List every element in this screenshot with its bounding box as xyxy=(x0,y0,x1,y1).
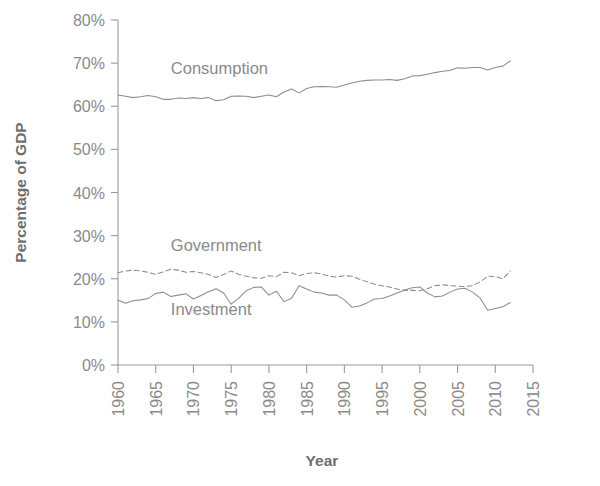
series-label-investment: Investment xyxy=(171,300,252,318)
x-tick-label: 2005 xyxy=(450,381,467,417)
x-tick-label: 1985 xyxy=(299,381,316,417)
x-tick-labels: 1960196519701975198019851990199520002005… xyxy=(110,381,542,417)
x-tick-label: 1970 xyxy=(185,381,202,417)
chart-canvas: 0%10%20%30%40%50%60%70%80% 1960196519701… xyxy=(0,0,600,486)
y-tick-label: 0% xyxy=(82,357,105,374)
x-axis-title: Year xyxy=(306,452,339,469)
x-tick-label: 1975 xyxy=(223,381,240,417)
x-tick-label: 1980 xyxy=(261,381,278,417)
data-series-group xyxy=(118,61,510,310)
x-tick-label: 2015 xyxy=(525,381,542,417)
series-label-government: Government xyxy=(171,236,262,254)
x-tick-label: 1995 xyxy=(374,381,391,417)
x-tick-label: 1990 xyxy=(336,381,353,417)
y-tick-label: 60% xyxy=(73,98,105,115)
y-tick-marks xyxy=(111,20,118,365)
y-tick-label: 10% xyxy=(73,314,105,331)
x-tick-label: 2000 xyxy=(412,381,429,417)
x-tick-marks xyxy=(118,365,533,373)
y-axis-title: Percentage of GDP xyxy=(12,122,29,262)
y-axis-group: 0%10%20%30%40%50%60%70%80% xyxy=(73,12,118,374)
series-line-government xyxy=(118,269,510,291)
y-tick-labels: 0%10%20%30%40%50%60%70%80% xyxy=(73,12,105,374)
x-tick-label: 1965 xyxy=(148,381,165,417)
y-tick-label: 20% xyxy=(73,271,105,288)
x-tick-label: 2010 xyxy=(487,381,504,417)
x-axis-group: 1960196519701975198019851990199520002005… xyxy=(110,365,542,417)
y-tick-label: 70% xyxy=(73,55,105,72)
y-tick-label: 40% xyxy=(73,185,105,202)
y-tick-label: 50% xyxy=(73,141,105,158)
series-label-consumption: Consumption xyxy=(171,59,268,77)
x-tick-label: 1960 xyxy=(110,381,127,417)
chart-figure: 0%10%20%30%40%50%60%70%80% 1960196519701… xyxy=(0,0,600,486)
y-tick-label: 80% xyxy=(73,12,105,29)
y-tick-label: 30% xyxy=(73,228,105,245)
